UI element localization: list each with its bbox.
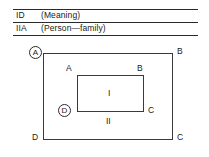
outer-corner-label-b: B [177, 47, 183, 56]
inner-corner-label-c: C [148, 106, 154, 115]
table-row-id: IIA [16, 23, 27, 34]
region-label-two: II [106, 117, 111, 126]
outer-corner-label-a-circled: A [29, 46, 42, 59]
table-rule-bottom [13, 35, 198, 36]
outer-corner-label-c: C [177, 133, 183, 142]
inner-corner-label-d-circled: D [58, 104, 71, 117]
inner-rectangle [77, 75, 144, 112]
outer-corner-label-d: D [32, 133, 38, 142]
region-label-one: I [108, 89, 110, 98]
table-row-meaning: (Person—family) [41, 23, 106, 34]
inner-corner-label-a: A [66, 64, 72, 73]
figure-page: ID (Meaning) IIA (Person—family) A B C D… [0, 0, 209, 157]
table-header-id: ID [16, 10, 25, 21]
table-header-meaning: (Meaning) [41, 10, 80, 21]
nested-rectangles-diagram: A B C D A B C D I II [0, 38, 209, 157]
inner-corner-label-b: B [137, 64, 143, 73]
